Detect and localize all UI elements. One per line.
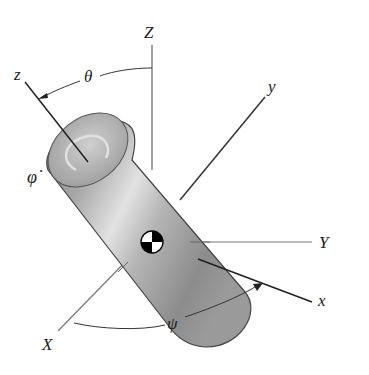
theta-arc (100, 68, 152, 76)
y-axis-line (180, 97, 265, 200)
theta-arc-lower (43, 81, 80, 97)
center-of-mass-symbol (141, 231, 163, 253)
psi-label: ψ (167, 314, 178, 333)
X-axis-line (58, 255, 132, 331)
y-axis-label: y (266, 77, 276, 96)
x-axis-label: x (317, 291, 326, 310)
Z-axis-label: Z (144, 23, 154, 42)
X-axis-label: X (41, 335, 53, 354)
euler-angle-diagram: Z z θ y φ̇ Y x ψ X (0, 0, 369, 375)
z-axis-label: z (13, 65, 21, 84)
phi-dot-label: φ̇ (27, 167, 43, 187)
Y-axis-label: Y (319, 233, 330, 252)
theta-arrowhead (38, 93, 48, 99)
theta-label: θ (84, 67, 92, 86)
psi-arc (74, 323, 165, 329)
